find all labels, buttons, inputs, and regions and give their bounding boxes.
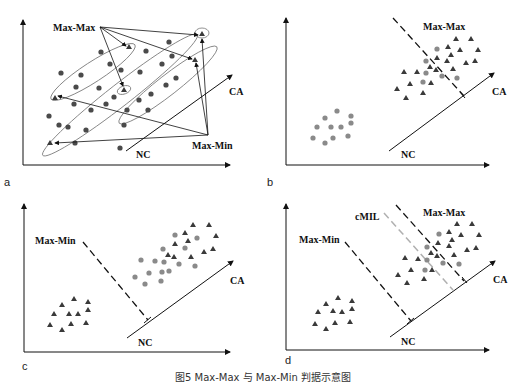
positive-bag-circles: [422, 231, 461, 272]
panel-b: Max-Max CA NC b: [263, 0, 526, 192]
negative-triangles: [312, 295, 355, 331]
panel-d-diagram: cMIL Max-Max Max-Min CA NC d: [263, 192, 526, 384]
max-min-boundary: [345, 242, 411, 321]
max-max-arrows: [100, 27, 198, 86]
positive-triangles: [395, 221, 482, 285]
positive-triangles: [165, 222, 219, 259]
panel-label: d: [285, 354, 291, 366]
ca-label: CA: [230, 275, 245, 286]
panel-label: a: [4, 176, 11, 188]
max-min-label: Max-Min: [192, 140, 233, 151]
panel-c-diagram: Max-Min CA NC c: [0, 192, 263, 384]
nc-label: NC: [138, 337, 152, 348]
positive-bag-circles: [420, 46, 459, 84]
positive-triangles: [394, 36, 481, 100]
cmil-boundary: [384, 213, 453, 290]
nc-label: NC: [136, 149, 150, 160]
max-min-boundary: [83, 242, 148, 320]
max-min-arrows: [55, 39, 208, 143]
max-max-label: Max-Max: [423, 207, 465, 218]
panel-a: Max-Max Max-Min CA NC a: [0, 0, 263, 192]
max-max-label: Max-Max: [53, 22, 95, 33]
ca-label: CA: [492, 86, 507, 97]
cmil-label: cMIL: [355, 211, 380, 222]
nc-label: NC: [401, 336, 415, 347]
negative-triangles: [47, 296, 91, 332]
panel-a-diagram: Max-Max Max-Min CA NC a: [0, 0, 263, 192]
max-min-label: Max-Min: [35, 235, 76, 246]
positive-circles: [132, 232, 199, 286]
ca-label: CA: [229, 86, 244, 97]
panel-c: Max-Min CA NC c: [0, 192, 263, 384]
figure-caption: 图5 Max-Max 与 Max-Min 判据示意图: [0, 369, 526, 384]
panel-label: b: [267, 176, 273, 188]
instances-circles: [46, 39, 178, 150]
max-max-label: Max-Max: [423, 21, 465, 32]
max-min-label: Max-Min: [299, 234, 340, 245]
panel-d: cMIL Max-Max Max-Min CA NC d: [263, 192, 526, 384]
negative-circles: [310, 108, 353, 145]
panel-b-diagram: Max-Max CA NC b: [263, 0, 526, 192]
ca-label: CA: [493, 274, 508, 285]
nc-label: NC: [401, 149, 415, 160]
